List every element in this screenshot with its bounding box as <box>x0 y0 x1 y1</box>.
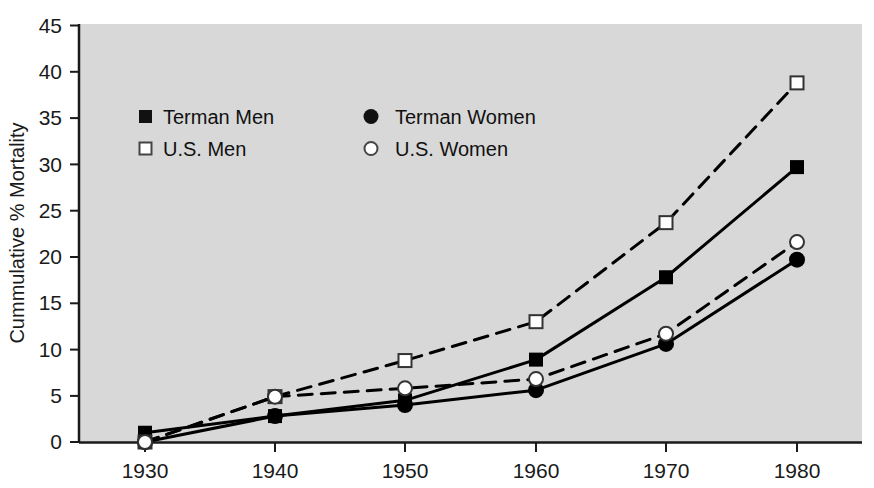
legend-marker-filled-circle-icon <box>364 109 379 124</box>
data-point-open-square <box>660 216 673 229</box>
y-tick-label: 5 <box>50 384 62 407</box>
y-tick-label: 45 <box>39 14 62 37</box>
data-point-open-circle <box>268 390 282 404</box>
data-point-filled-square <box>529 353 543 367</box>
mortality-line-chart: 45 40 35 30 25 20 15 10 5 0 1930 1940 19… <box>0 0 874 488</box>
y-tick-label: 20 <box>39 245 62 268</box>
legend-label-us-women: U.S. Women <box>395 138 508 160</box>
legend-marker-open-circle-icon <box>365 142 378 155</box>
data-point-open-circle <box>790 235 804 249</box>
data-point-filled-square <box>790 160 804 174</box>
data-point-filled-circle <box>267 408 283 424</box>
legend-label-terman-men: Terman Men <box>163 106 274 128</box>
y-tick-label: 25 <box>39 199 62 222</box>
legend-marker-filled-square-icon <box>139 110 152 123</box>
legend-label-us-men: U.S. Men <box>163 138 246 160</box>
data-point-open-circle <box>659 327 673 341</box>
legend-marker-open-square-icon <box>140 143 152 155</box>
y-axis-title: Cummulative % Mortality <box>6 122 28 343</box>
y-tick-label: 15 <box>39 291 62 314</box>
x-tick-label: 1970 <box>643 459 690 482</box>
data-point-open-circle <box>138 435 152 449</box>
data-point-filled-circle <box>789 252 805 268</box>
legend-label-terman-women: Terman Women <box>395 106 536 128</box>
y-tick-label: 0 <box>50 430 62 453</box>
data-point-filled-square <box>659 270 673 284</box>
data-point-filled-circle <box>397 397 413 413</box>
data-point-open-square <box>791 76 804 89</box>
x-tick-label: 1930 <box>122 459 169 482</box>
y-tick-label: 40 <box>39 60 62 83</box>
x-tick-label: 1980 <box>774 459 821 482</box>
data-point-open-circle <box>398 381 412 395</box>
x-tick-label: 1950 <box>382 459 429 482</box>
y-tick-label: 30 <box>39 153 62 176</box>
data-point-open-circle <box>529 372 543 386</box>
x-tick-label: 1960 <box>513 459 560 482</box>
data-point-open-square <box>530 315 543 328</box>
y-tick-label: 10 <box>39 338 62 361</box>
y-tick-label: 35 <box>39 106 62 129</box>
x-tick-label: 1940 <box>252 459 299 482</box>
data-point-open-square <box>399 354 412 367</box>
